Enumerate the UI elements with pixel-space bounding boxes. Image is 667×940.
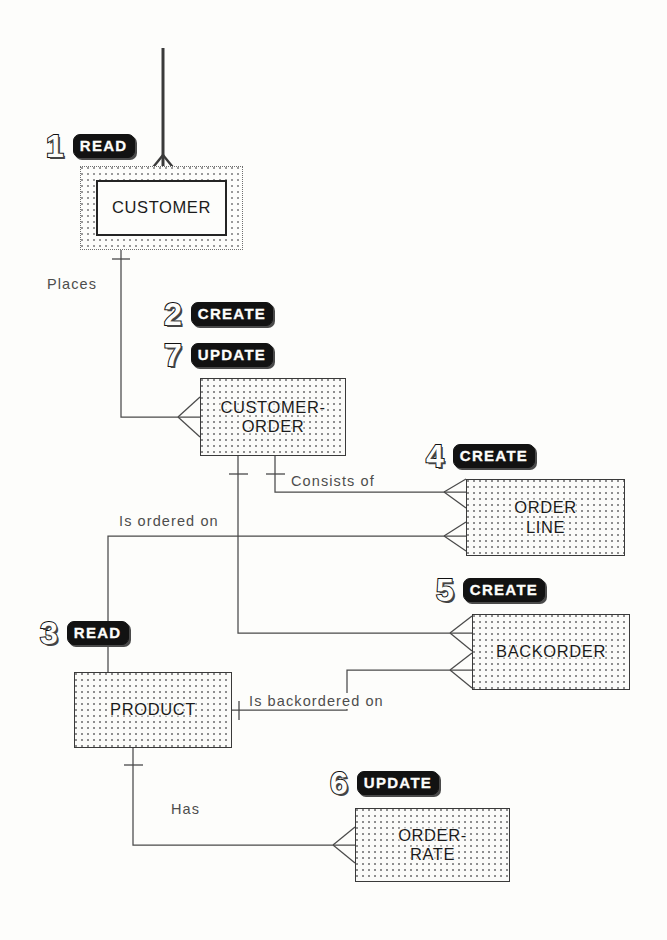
step-action: UPDATE xyxy=(191,343,273,367)
relationship-label-has: Has xyxy=(168,801,203,817)
entity-backorder[interactable]: BACKORDER xyxy=(472,614,630,690)
step-badge-5: 5 CREATE xyxy=(436,574,545,606)
step-action: UPDATE xyxy=(357,771,439,795)
step-number: 6 xyxy=(330,767,348,799)
entity-customer-label: CUSTOMER xyxy=(108,198,215,217)
entity-order-line[interactable]: ORDER LINE xyxy=(466,479,625,556)
step-action: CREATE xyxy=(191,302,273,326)
step-action: CREATE xyxy=(463,578,545,602)
entity-order-rate-label: ORDER- RATE xyxy=(394,826,471,865)
step-number: 7 xyxy=(164,339,182,371)
step-action: READ xyxy=(67,621,129,645)
step-number: 3 xyxy=(40,617,58,649)
relationship-label-places: Places xyxy=(44,276,100,292)
entity-product-label: PRODUCT xyxy=(106,700,200,719)
step-number: 5 xyxy=(436,574,454,606)
relationship-label-consists-of: Consists of xyxy=(288,473,378,489)
step-badge-1: 1 READ xyxy=(46,130,135,162)
step-number: 1 xyxy=(46,130,64,162)
entity-order-line-label: ORDER LINE xyxy=(510,498,581,537)
entity-product[interactable]: PRODUCT xyxy=(74,672,232,748)
entity-customer-order[interactable]: CUSTOMER- ORDER xyxy=(200,378,346,456)
relationship-label-is-ordered-on: Is ordered on xyxy=(116,513,222,529)
step-action: CREATE xyxy=(453,444,535,468)
step-action: READ xyxy=(73,134,135,158)
entity-customer-order-label: CUSTOMER- ORDER xyxy=(216,398,329,437)
step-badge-7: 7 UPDATE xyxy=(164,339,273,371)
er-diagram-canvas: one tick --> down, across to CUSTOMER-OR… xyxy=(0,0,667,940)
step-badge-4: 4 CREATE xyxy=(426,440,535,472)
step-badge-3: 3 READ xyxy=(40,617,129,649)
entity-customer[interactable]: CUSTOMER xyxy=(96,180,227,236)
relationship-label-is-backordered-on: Is backordered on xyxy=(246,693,387,709)
entity-backorder-label: BACKORDER xyxy=(492,642,610,661)
step-badge-2: 2 CREATE xyxy=(164,298,273,330)
step-badge-6: 6 UPDATE xyxy=(330,767,439,799)
step-number: 2 xyxy=(164,298,182,330)
entity-order-rate[interactable]: ORDER- RATE xyxy=(355,808,510,882)
step-number: 4 xyxy=(426,440,444,472)
